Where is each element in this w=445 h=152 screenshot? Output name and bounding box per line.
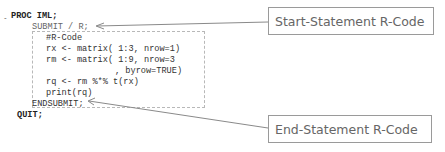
- start-statement-callout: Start-Statement R-Code: [268, 7, 434, 35]
- start-callout-label: Start-Statement R-Code: [275, 14, 425, 29]
- end-callout-label: End-Statement R-Code: [275, 122, 418, 137]
- start-arrow-icon: [96, 22, 268, 29]
- end-statement-callout: End-Statement R-Code: [268, 115, 432, 143]
- end-arrow-icon: [88, 98, 268, 128]
